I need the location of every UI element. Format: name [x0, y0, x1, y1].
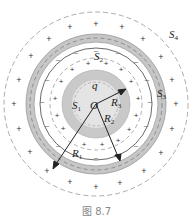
svg-text:+: +: [93, 19, 98, 29]
svg-text:+: +: [169, 75, 174, 85]
svg-text:+: +: [16, 124, 21, 134]
svg-text:–: –: [144, 121, 149, 130]
svg-text:+: +: [104, 59, 109, 68]
svg-text:–: –: [74, 48, 79, 57]
svg-text:–: –: [134, 57, 139, 66]
svg-text:+: +: [11, 99, 16, 109]
svg-text:+: +: [86, 59, 91, 68]
svg-text:+: +: [140, 34, 145, 44]
svg-text:+: +: [44, 166, 49, 176]
svg-text:–: –: [45, 75, 50, 84]
svg-text:–: –: [145, 75, 150, 84]
svg-text:–: –: [94, 153, 99, 162]
svg-text:+: +: [53, 94, 58, 103]
svg-text:+: +: [55, 111, 60, 120]
svg-text:+: +: [67, 22, 72, 32]
svg-text:+: +: [129, 77, 134, 86]
svg-text:O: O: [90, 99, 98, 111]
figure-caption: 图 8.7: [0, 203, 193, 218]
svg-text:+: +: [134, 111, 139, 120]
svg-text:+: +: [119, 22, 124, 32]
svg-text:–: –: [40, 97, 45, 106]
svg-text:+: +: [67, 177, 72, 187]
svg-text:+: +: [100, 140, 105, 149]
concentric-spheres-diagram: +++ ++ ++ ++ ++ ++ ++ ++ +++ ––– –– –– –…: [0, 0, 193, 205]
svg-text:S2: S2: [94, 50, 104, 64]
svg-text:+: +: [61, 124, 66, 133]
svg-text:R1: R1: [71, 147, 83, 161]
svg-text:S4: S4: [169, 28, 179, 42]
svg-text:–: –: [56, 55, 61, 64]
svg-text:–: –: [134, 141, 139, 150]
svg-text:+: +: [173, 99, 178, 109]
svg-text:+: +: [70, 65, 75, 74]
svg-text:q: q: [92, 79, 98, 91]
svg-text:–: –: [116, 48, 121, 57]
svg-text:+: +: [27, 147, 32, 157]
svg-text:S3: S3: [157, 87, 167, 101]
svg-text:–: –: [45, 121, 50, 130]
svg-text:+: +: [158, 148, 163, 158]
svg-text:+: +: [46, 34, 51, 44]
svg-text:+: +: [119, 65, 124, 74]
svg-text:+: +: [169, 124, 174, 134]
svg-text:+: +: [16, 75, 21, 85]
svg-text:–: –: [56, 141, 61, 150]
svg-text:+: +: [141, 166, 146, 176]
svg-text:+: +: [93, 182, 98, 192]
svg-text:+: +: [136, 94, 141, 103]
charge-label: q: [92, 79, 98, 91]
svg-text:+: +: [127, 125, 132, 134]
center-label: O: [90, 99, 98, 111]
svg-text:+: +: [82, 140, 87, 149]
svg-text:–: –: [148, 97, 153, 106]
svg-text:+: +: [117, 178, 122, 188]
svg-text:+: +: [59, 77, 64, 86]
svg-text:+: +: [116, 136, 121, 145]
svg-text:+: +: [158, 52, 163, 62]
svg-text:+: +: [28, 51, 33, 61]
